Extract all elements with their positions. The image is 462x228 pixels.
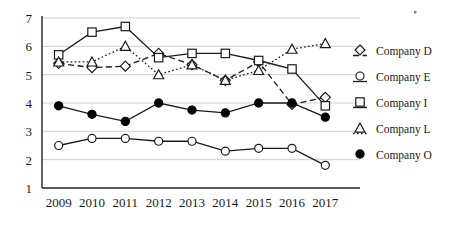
marker-open-square [188,49,196,57]
x-axis-tick-label: 2014 [212,195,239,210]
marker-open-square [221,49,229,57]
marker-open-triangle [287,44,297,53]
x-axis-tick-label: 2015 [246,195,272,210]
legend-label: Company D [376,45,432,58]
series-company-e [55,134,330,169]
y-axis-tick-label: 3 [26,124,33,139]
marker-open-square [321,102,329,110]
legend-item-company-i[interactable]: Company I [353,97,428,110]
legend-item-company-l[interactable]: Company L [353,123,431,136]
line-chart: 1234567200920102011201220132014201520162… [0,0,462,228]
marker-open-circle [321,161,329,169]
series-company-l [54,39,331,85]
chart-canvas: 1234567200920102011201220132014201520162… [0,0,462,228]
legend-item-company-d[interactable]: Company D [353,45,432,58]
marker-filled-circle [288,99,296,107]
marker-filled-circle [55,102,63,110]
y-axis-tick-label: 7 [26,11,33,26]
legend-label: Company E [376,71,431,84]
marker-open-circle [188,137,196,145]
marker-open-circle [221,147,229,155]
marker-filled-circle [356,150,364,158]
x-axis-tick-label: 2012 [146,195,172,210]
marker-open-square [288,65,296,73]
x-axis-labels: 200920102011201220132014201520162017 [46,195,339,210]
y-axis-tick-label: 1 [26,181,33,196]
y-axis-tick-label: 6 [26,39,33,54]
x-axis-tick-label: 2009 [46,195,72,210]
marker-open-diamond [320,92,330,102]
x-axis-tick-label: 2013 [179,195,205,210]
marker-open-square [88,28,96,36]
marker-open-circle [356,72,364,80]
x-axis-tick-label: 2010 [79,195,105,210]
y-gridlines: 1234567 [26,11,361,196]
marker-open-circle [88,134,96,142]
marker-filled-circle [255,99,263,107]
legend-label: Company O [376,149,432,162]
marker-open-square [154,53,162,61]
y-axis-tick-label: 4 [26,96,33,111]
marker-open-diamond [120,61,130,71]
marker-open-circle [155,137,163,145]
x-axis-tick-label: 2017 [312,195,339,210]
marker-filled-circle [121,117,129,125]
marker-open-square [121,22,129,30]
marker-open-square [356,98,364,106]
marker-open-circle [121,134,129,142]
y-axis-tick-label: 5 [26,68,33,83]
legend-label: Company L [376,123,431,136]
legend-item-company-o[interactable]: Company O [356,149,432,162]
scan-speck [414,11,416,13]
legend-item-company-e[interactable]: Company E [353,71,431,84]
marker-open-triangle [87,57,97,66]
marker-open-circle [288,144,296,152]
marker-open-circle [255,144,263,152]
x-axis-tick-label: 2016 [279,195,306,210]
legend-label: Company I [376,97,428,110]
marker-filled-circle [188,106,196,114]
marker-filled-circle [221,109,229,117]
marker-open-circle [55,142,63,150]
chart-legend: Company DCompany ECompany ICompany LComp… [353,45,432,162]
y-axis-tick-label: 2 [26,153,33,168]
marker-open-triangle [355,123,365,132]
marker-open-triangle [320,39,330,48]
marker-filled-circle [321,113,329,121]
marker-open-square [254,56,262,64]
marker-filled-circle [155,99,163,107]
marker-filled-circle [88,110,96,118]
x-axis-tick-label: 2011 [113,195,139,210]
